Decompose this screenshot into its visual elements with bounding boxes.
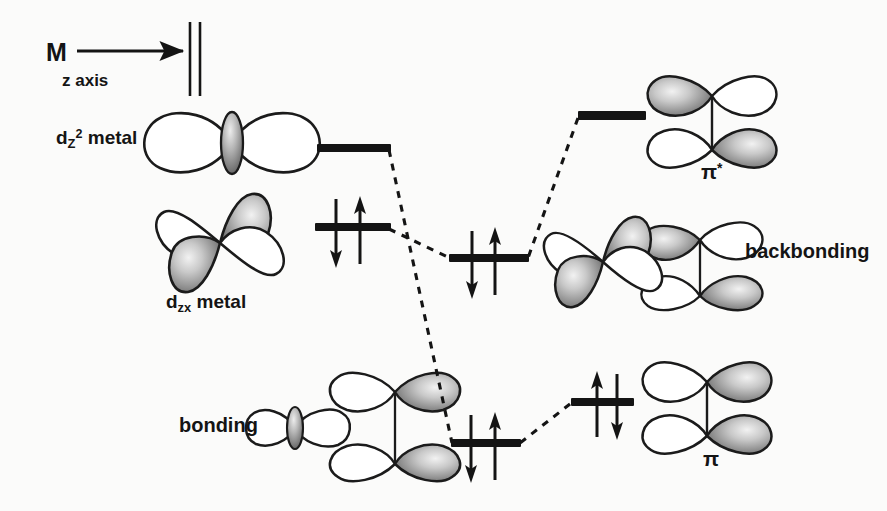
pi-star-asterisk: *	[717, 160, 722, 176]
backbonding-lobe-bottom-right	[700, 276, 762, 310]
bonding-lobe-top-right	[395, 373, 460, 412]
pi-star-lobe-top-left	[648, 77, 712, 116]
energy-level-bars	[315, 111, 646, 447]
spin-up-head-bb	[489, 227, 501, 245]
pi-star-lobe-top-right	[712, 77, 776, 116]
electron-arrows	[330, 196, 623, 483]
backbonding-d-lobe-lower-right	[603, 247, 662, 291]
backbonding-overlap-orbital	[544, 217, 762, 310]
spin-down-head-b	[465, 465, 477, 483]
spin-up-head-b	[489, 412, 501, 430]
backbonding-lobe-top-left	[641, 226, 700, 260]
level-bar-backbonding	[449, 254, 529, 262]
level-bar-pi-star	[578, 111, 646, 120]
level-bar-dzx-metal	[315, 223, 391, 231]
electron-pair-bonding	[465, 412, 501, 483]
spin-up-head-dzx	[354, 196, 366, 214]
dz2-metal-label: dZ2 metal	[56, 128, 137, 151]
pi-ligand-orbital	[643, 363, 772, 454]
dz2-left-lobe	[144, 113, 232, 172]
backbonding-d-lobe-upper-left	[544, 233, 603, 277]
electron-pair-backbonding	[466, 227, 501, 299]
electron-pair-pi	[591, 371, 623, 440]
dz2-label-base: d	[56, 127, 68, 148]
pi-lobe-bottom-left	[643, 415, 707, 453]
spin-down-head-pi	[611, 422, 623, 440]
dzx-metal-label: dzx metal	[166, 292, 246, 315]
bonding-dz2-right-lobe	[295, 410, 350, 447]
pi-lobe-top-left	[643, 363, 707, 402]
dz2-metal-orbital	[144, 112, 320, 174]
level-bar-pi	[571, 398, 634, 406]
corr-dz2-to-bonding	[389, 150, 452, 443]
bonding-overlap-orbital	[246, 373, 460, 481]
correlation-lines	[389, 118, 578, 443]
bonding-label: bonding	[179, 415, 258, 435]
dz2-label-sub: Z	[68, 136, 76, 151]
pi-lobe-top-right	[707, 363, 771, 402]
dz2-central-torus	[221, 112, 243, 174]
corr-pistar-to-backbonding	[528, 118, 578, 258]
backbonding-lobe-bottom-left	[641, 276, 700, 310]
dzx-label-tail: metal	[191, 291, 246, 312]
pi-star-label: π*	[701, 161, 722, 182]
dz2-right-lobe	[232, 113, 320, 172]
dz2-label-tail: metal	[82, 127, 137, 148]
bonding-dz2-torus	[287, 407, 303, 449]
z-axis-label: z axis	[62, 72, 108, 89]
corr-pi-to-bonding	[520, 404, 570, 443]
pi-label: π	[703, 448, 719, 469]
mo-diagram-canvas: M z axis dZ2 metal dzx metal π* π backbo…	[0, 0, 887, 511]
electron-pair-dzx	[330, 196, 366, 268]
pi-star-glyph: π	[701, 160, 717, 183]
bonding-lobe-bottom-left	[330, 445, 395, 482]
level-bar-bonding	[451, 439, 521, 447]
dzx-lobe-upper-right	[220, 194, 271, 250]
dzx-label-base: d	[166, 291, 178, 312]
backbonding-d-lobe-lower-left	[555, 256, 603, 307]
spin-down-head-bb	[466, 281, 478, 299]
metal-label: M	[46, 40, 67, 65]
dzx-metal-orbital	[156, 194, 283, 292]
bonding-lobe-bottom-right	[395, 445, 460, 482]
level-bar-dz2-metal	[317, 144, 391, 152]
backbonding-d-lobe-upper-right	[603, 217, 651, 268]
corr-dzx-to-backbonding	[389, 229, 450, 258]
backbonding-label: backbonding	[745, 241, 869, 261]
spin-down-head-dzx	[330, 250, 342, 268]
bonding-lobe-top-left	[330, 373, 395, 412]
dzx-lobe-lower-right	[220, 227, 284, 275]
dzx-label-sub: zx	[178, 300, 192, 315]
dzx-lobe-lower-left	[169, 237, 220, 293]
dzx-lobe-upper-left	[156, 211, 220, 259]
spin-up-head-pi	[591, 371, 603, 389]
pi-star-ligand-orbital	[648, 77, 777, 168]
